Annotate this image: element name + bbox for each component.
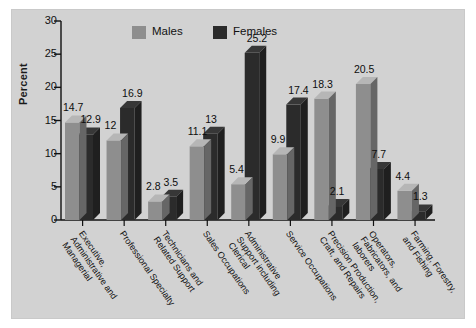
bar-males-4	[231, 177, 253, 220]
bar-males-6	[314, 92, 336, 220]
y-tick-label: 20	[45, 80, 57, 92]
data-label-females-4: 25.2	[247, 32, 267, 44]
data-label-males-4: 5.4	[229, 163, 244, 175]
data-label-females-5: 17.4	[288, 84, 308, 96]
data-label-females-6: 2.1	[330, 185, 345, 197]
y-tick-label: 30	[45, 14, 57, 26]
y-tick-label: 5	[51, 180, 57, 192]
data-label-females-2: 3.5	[164, 176, 179, 188]
bar-males-1	[107, 133, 129, 220]
data-label-males-0: 14.7	[63, 101, 83, 113]
figure-root: 051015202530 Percent Males Females 14.71…	[0, 0, 476, 328]
data-label-males-6: 18.3	[312, 78, 332, 90]
data-label-males-5: 9.9	[271, 133, 286, 145]
y-tick-label: 15	[45, 114, 57, 126]
data-label-males-2: 2.8	[146, 180, 161, 192]
bar-males-2	[148, 194, 170, 220]
y-axis-title: Percent	[17, 91, 29, 105]
bars-group	[65, 46, 432, 220]
bar-males-5	[273, 147, 295, 220]
legend-label-males: Males	[152, 25, 183, 37]
y-tick-label: 0	[51, 213, 57, 225]
data-label-females-3: 13	[205, 113, 217, 125]
legend-swatch-females	[213, 26, 227, 39]
data-label-males-1: 12	[105, 119, 117, 131]
data-label-males-3: 11.1	[188, 125, 208, 137]
data-label-males-7: 20.5	[354, 63, 374, 75]
x-tick-marks	[83, 220, 415, 226]
data-label-females-8: 1.3	[413, 190, 428, 202]
data-label-females-0: 12.9	[81, 113, 101, 125]
y-tick-label: 25	[45, 47, 57, 59]
data-label-males-8: 4.4	[395, 170, 410, 182]
chart-panel: 051015202530 Percent Males Females 14.71…	[11, 9, 465, 319]
bar-males-3	[190, 139, 212, 220]
y-tick-label: 10	[45, 147, 57, 159]
y-tick-labels: 051015202530	[23, 9, 57, 319]
data-label-females-7: 7.7	[371, 148, 386, 160]
data-label-females-1: 16.9	[122, 87, 142, 99]
legend-swatch-males	[132, 26, 146, 39]
bar-males-0	[65, 115, 87, 220]
